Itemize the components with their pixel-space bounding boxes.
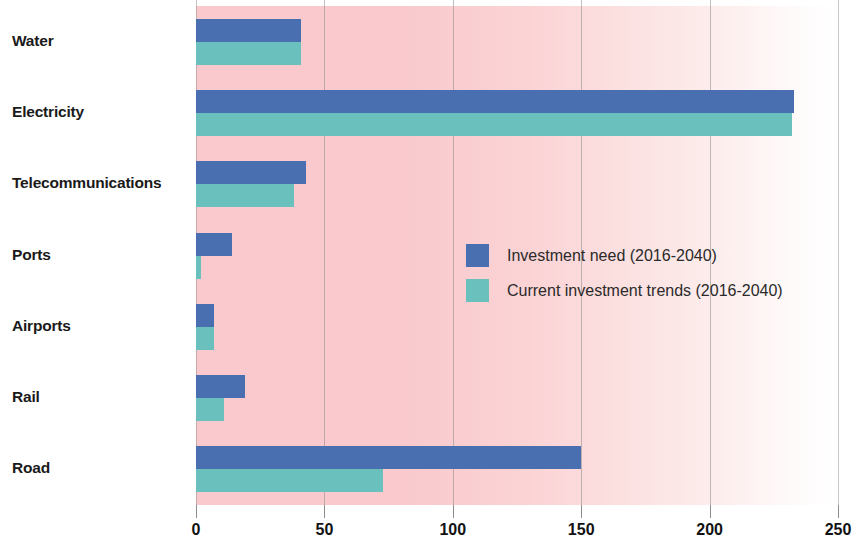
bar-electricity-need	[196, 90, 794, 113]
category-label-6: Road	[0, 459, 185, 477]
bar-airports-need	[196, 304, 214, 327]
gridline-250	[838, 0, 839, 512]
bar-road-need	[196, 446, 581, 469]
category-label-4: Airports	[0, 317, 185, 335]
x-tick-mark-200	[710, 505, 711, 518]
bar-water-need	[196, 19, 301, 42]
x-tick-mark-250	[838, 505, 839, 518]
x-tick-label-200: 200	[696, 521, 723, 539]
category-label-2: Telecommunications	[0, 174, 185, 192]
bar-water-trend	[196, 42, 301, 65]
bar-ports-trend	[196, 256, 201, 279]
legend-item-need: Investment need (2016-2040)	[466, 238, 838, 273]
chart-legend: Investment need (2016-2040) Current inve…	[466, 238, 838, 308]
legend-item-trend: Current investment trends (2016-2040)	[466, 273, 838, 308]
x-axis: 050100150200250	[196, 505, 838, 547]
x-tick-mark-150	[581, 505, 582, 518]
category-axis: Water Electricity Telecommunications Por…	[0, 0, 196, 505]
category-label-3: Ports	[0, 246, 185, 264]
category-label-0: Water	[0, 32, 185, 50]
category-label-5: Rail	[0, 388, 185, 406]
category-label-1: Electricity	[0, 103, 185, 121]
bar-telecommunications-trend	[196, 184, 294, 207]
x-tick-label-150: 150	[568, 521, 595, 539]
x-tick-mark-50	[324, 505, 325, 518]
legend-label-need: Investment need (2016-2040)	[507, 247, 717, 265]
x-tick-mark-0	[196, 505, 197, 518]
bar-rail-need	[196, 375, 245, 398]
x-tick-label-250: 250	[825, 521, 852, 539]
x-tick-mark-100	[453, 505, 454, 518]
bar-telecommunications-need	[196, 161, 306, 184]
bar-rail-trend	[196, 398, 224, 421]
x-tick-label-0: 0	[192, 521, 201, 539]
legend-swatch-need-icon	[466, 244, 489, 267]
bar-airports-trend	[196, 327, 214, 350]
bar-road-trend	[196, 469, 383, 492]
legend-label-trend: Current investment trends (2016-2040)	[507, 282, 783, 300]
x-tick-label-100: 100	[439, 521, 466, 539]
gridline-100	[453, 0, 454, 512]
legend-swatch-trend-icon	[466, 279, 489, 302]
gridline-50	[324, 0, 325, 512]
x-tick-label-50: 50	[315, 521, 333, 539]
bar-electricity-trend	[196, 113, 792, 136]
bar-chart: Water Electricity Telecommunications Por…	[0, 0, 868, 547]
bar-ports-need	[196, 233, 232, 256]
